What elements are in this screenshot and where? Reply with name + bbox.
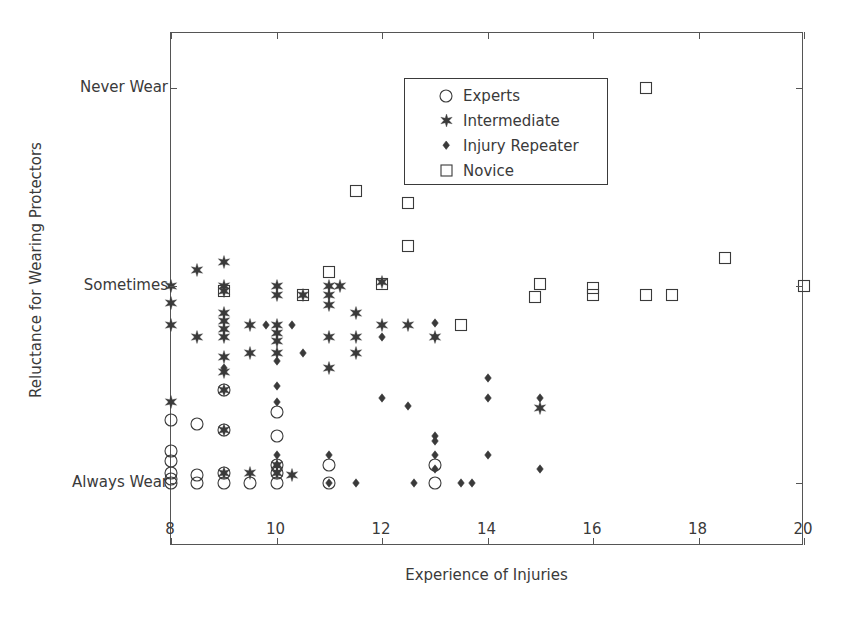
- data-point-injury-repeater: [466, 478, 476, 488]
- diamond-filled-icon: [429, 140, 463, 150]
- x-tick-top: [593, 32, 594, 39]
- data-point-intermediate: [533, 400, 548, 415]
- data-point-intermediate: [216, 306, 231, 321]
- legend[interactable]: Experts Intermediate Injury Repeater Nov…: [404, 78, 608, 185]
- square-open-icon: [429, 164, 463, 177]
- data-point-experts: [270, 466, 284, 480]
- data-point-injury-repeater: [430, 464, 440, 474]
- data-point-novice: [718, 251, 731, 264]
- data-point-intermediate: [216, 365, 231, 380]
- data-point-intermediate: [216, 383, 231, 398]
- data-point-injury-repeater: [324, 450, 334, 460]
- legend-item-novice[interactable]: Novice: [405, 158, 607, 183]
- data-point-novice: [639, 289, 652, 302]
- data-point-experts: [322, 458, 336, 472]
- x-axis-title: Experience of Injuries: [170, 566, 803, 584]
- data-point-experts: [190, 476, 204, 490]
- x-tick-label: 8: [165, 520, 175, 538]
- data-point-intermediate: [269, 333, 284, 348]
- data-point-experts: [270, 429, 284, 443]
- legend-item-injury-repeater[interactable]: Injury Repeater: [405, 133, 607, 158]
- x-tick-top: [382, 32, 383, 39]
- x-tick-top: [699, 32, 700, 39]
- x-tick: [593, 538, 594, 545]
- data-point-intermediate: [401, 318, 416, 333]
- data-point-intermediate: [269, 345, 284, 360]
- data-point-injury-repeater: [430, 430, 440, 440]
- x-tick: [699, 538, 700, 545]
- x-tick-top: [277, 32, 278, 39]
- y-tick: [170, 88, 177, 89]
- data-point-intermediate: [322, 329, 337, 344]
- data-point-intermediate: [269, 318, 284, 333]
- data-point-novice: [402, 240, 415, 253]
- data-point-injury-repeater: [287, 320, 297, 330]
- x-tick-label: 10: [266, 520, 285, 538]
- data-point-intermediate: [332, 278, 347, 293]
- data-point-injury-repeater: [535, 393, 545, 403]
- data-point-intermediate: [216, 254, 231, 269]
- data-point-injury-repeater: [430, 450, 440, 460]
- legend-item-label: Experts: [463, 87, 520, 105]
- data-point-injury-repeater: [271, 460, 281, 470]
- data-point-experts: [217, 466, 231, 480]
- data-point-injury-repeater: [430, 436, 440, 446]
- data-point-novice: [534, 277, 547, 290]
- y-tick-label: Never Wear: [80, 78, 168, 96]
- data-point-intermediate: [216, 422, 231, 437]
- data-point-intermediate: [190, 329, 205, 344]
- data-point-intermediate: [190, 262, 205, 277]
- legend-item-experts[interactable]: Experts: [405, 83, 607, 108]
- data-point-novice: [455, 319, 468, 332]
- data-point-injury-repeater: [482, 393, 492, 403]
- x-tick: [804, 538, 805, 545]
- data-point-intermediate: [216, 321, 231, 336]
- data-point-intermediate: [269, 466, 284, 481]
- x-tick-top: [804, 32, 805, 39]
- data-point-injury-repeater: [350, 478, 360, 488]
- data-point-intermediate: [216, 349, 231, 364]
- data-point-experts: [243, 476, 257, 490]
- data-point-intermediate: [322, 288, 337, 303]
- x-tick: [382, 538, 383, 545]
- data-point-experts: [428, 476, 442, 490]
- data-point-novice: [296, 289, 309, 302]
- circle-open-icon: [429, 89, 463, 103]
- data-point-intermediate: [348, 345, 363, 360]
- data-point-injury-repeater: [377, 393, 387, 403]
- data-point-novice: [639, 82, 652, 95]
- data-point-intermediate: [216, 284, 231, 299]
- data-point-intermediate: [427, 329, 442, 344]
- data-point-injury-repeater: [482, 450, 492, 460]
- data-point-intermediate: [243, 318, 258, 333]
- x-tick-label: 14: [477, 520, 496, 538]
- data-point-injury-repeater: [324, 478, 334, 488]
- data-point-experts: [217, 423, 231, 437]
- data-point-intermediate: [322, 278, 337, 293]
- legend-item-intermediate[interactable]: Intermediate: [405, 108, 607, 133]
- data-point-injury-repeater: [430, 332, 440, 342]
- data-point-intermediate: [322, 298, 337, 313]
- data-point-injury-repeater: [403, 401, 413, 411]
- data-point-injury-repeater: [535, 464, 545, 474]
- data-point-injury-repeater: [482, 373, 492, 383]
- data-point-intermediate: [348, 329, 363, 344]
- data-point-experts: [190, 417, 204, 431]
- data-point-injury-repeater: [298, 347, 308, 357]
- x-tick-top: [488, 32, 489, 39]
- data-point-injury-repeater: [271, 450, 281, 460]
- data-point-intermediate: [216, 278, 231, 293]
- data-point-intermediate: [285, 467, 300, 482]
- data-point-intermediate: [269, 288, 284, 303]
- figure: Reluctance for Wearing Protectors Always…: [0, 0, 851, 624]
- y-tick-label: Always Wear: [72, 473, 168, 491]
- data-point-experts: [322, 476, 336, 490]
- data-point-novice: [587, 289, 600, 302]
- data-point-intermediate: [243, 466, 258, 481]
- data-point-novice: [323, 265, 336, 278]
- x-tick-label: 20: [793, 520, 812, 538]
- data-point-injury-repeater: [271, 397, 281, 407]
- x-tick-top: [171, 32, 172, 39]
- data-point-injury-repeater: [271, 355, 281, 365]
- y-tick-label: Sometimes: [84, 276, 168, 294]
